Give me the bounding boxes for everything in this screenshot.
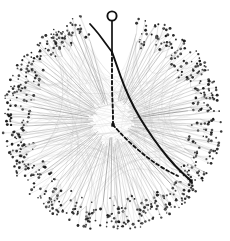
leaf-node-dot xyxy=(25,71,27,73)
leaf-node-dot xyxy=(140,215,142,217)
leaf-node-dot xyxy=(175,199,178,202)
leaf-node-dot xyxy=(47,202,49,204)
leaf-node-dot xyxy=(26,54,29,57)
leaf-node-dot xyxy=(109,197,111,199)
leaf-node-dot xyxy=(188,190,190,192)
leaf-node-dot xyxy=(89,227,91,229)
leaf-node-dot xyxy=(210,119,213,122)
leaf-node-dot xyxy=(23,120,25,122)
leaf-node-dot xyxy=(14,104,17,107)
leaf-node-dot xyxy=(71,23,73,25)
leaf-node-dot xyxy=(171,47,173,49)
leaf-node-dot xyxy=(160,216,162,218)
leaf-node-dot xyxy=(187,138,190,141)
leaf-node-dot xyxy=(216,99,219,102)
leaf-node-dot xyxy=(33,57,35,59)
leaf-node-dot xyxy=(178,207,180,209)
leaf-node-dot xyxy=(134,226,136,228)
leaf-node-dot xyxy=(215,89,217,91)
leaf-node-dot xyxy=(33,186,35,188)
leaf-node-dot xyxy=(189,176,192,179)
leaf-node-dot xyxy=(216,152,218,154)
leaf-node-dot xyxy=(30,175,32,177)
leaf-node-dot xyxy=(50,33,52,35)
leaf-node-dot xyxy=(193,157,195,159)
leaf-node-dot xyxy=(106,214,109,217)
leaf-node-dot xyxy=(160,43,162,45)
leaf-node-dot xyxy=(210,162,213,165)
leaf-node-dot xyxy=(33,182,35,184)
leaf-node-dot xyxy=(198,175,200,177)
leaf-node-dot xyxy=(170,57,173,60)
leaf-node-dot xyxy=(85,226,87,228)
leaf-node-dot xyxy=(217,144,220,147)
leaf-node-dot xyxy=(175,190,177,192)
leaf-node-dot xyxy=(14,136,16,138)
leaf-node-dot xyxy=(17,68,19,70)
leaf-node-dot xyxy=(141,222,144,225)
leaf-node-dot xyxy=(205,158,207,160)
leaf-node-dot xyxy=(70,42,73,45)
leaf-node-dot xyxy=(44,34,47,37)
leaf-node-dot xyxy=(117,211,120,214)
leaf-node-dot xyxy=(111,213,113,215)
leaf-node-dot xyxy=(51,180,53,182)
leaf-node-dot xyxy=(199,108,202,111)
leaf-node-dot xyxy=(192,69,194,71)
leaf-node-dot xyxy=(56,38,58,40)
leaf-node-dot xyxy=(41,36,44,39)
leaf-node-dot xyxy=(25,100,27,102)
leaf-node-dot xyxy=(51,212,54,215)
leaf-node-dot xyxy=(20,63,22,65)
leaf-node-dot xyxy=(39,49,41,51)
leaf-node-dot xyxy=(175,39,177,41)
leaf-node-dot xyxy=(45,205,48,208)
leaf-node-dot xyxy=(9,151,11,153)
leaf-node-dot xyxy=(32,60,34,62)
leaf-node-dot xyxy=(151,217,153,219)
leaf-node-dot xyxy=(66,29,68,31)
leaf-node-dot xyxy=(22,87,24,89)
leaf-node-dot xyxy=(216,94,219,97)
leaf-node-dot xyxy=(56,214,58,216)
leaf-node-dot xyxy=(147,204,149,206)
leaf-node-dot xyxy=(207,162,209,164)
leaf-node-dot xyxy=(203,135,205,137)
leaf-node-dot xyxy=(76,202,78,204)
leaf-node-dot xyxy=(26,153,28,155)
leaf-node-dot xyxy=(32,167,34,169)
leaf-node-dot xyxy=(197,53,199,55)
leaf-node-dot xyxy=(77,28,80,31)
leaf-node-dot xyxy=(12,94,14,96)
leaf-node-dot xyxy=(66,25,68,27)
leaf-node-dot xyxy=(37,197,39,199)
leaf-node-dot xyxy=(8,90,10,92)
leaf-node-dot xyxy=(16,175,18,177)
leaf-node-dot xyxy=(169,43,172,46)
leaf-node-dot xyxy=(18,74,21,77)
leaf-node-dot xyxy=(11,134,14,137)
leaf-node-dot xyxy=(64,35,66,37)
leaf-node-dot xyxy=(144,20,146,22)
leaf-node-dot xyxy=(121,207,123,209)
leaf-node-dot xyxy=(85,218,87,220)
leaf-node-dot xyxy=(93,209,95,211)
leaf-node-dot xyxy=(4,98,6,100)
leaf-node-dot xyxy=(47,49,50,52)
leaf-node-dot xyxy=(209,155,211,157)
leaf-node-dot xyxy=(9,113,12,116)
leaf-node-dot xyxy=(143,41,145,43)
leaf-node-dot xyxy=(188,196,191,199)
leaf-node-dot xyxy=(165,45,167,47)
leaf-node-dot xyxy=(72,18,74,20)
leaf-node-dot xyxy=(197,101,199,103)
leaf-node-dot xyxy=(210,108,212,110)
leaf-node-dot xyxy=(208,138,210,140)
leaf-node-dot xyxy=(184,202,186,204)
leaf-node-dot xyxy=(206,104,209,107)
leaf-node-dot xyxy=(192,102,195,105)
leaf-node-dot xyxy=(91,201,93,203)
leaf-node-dot xyxy=(188,135,190,137)
leaf-node-dot xyxy=(139,39,141,41)
leaf-node-dot xyxy=(23,143,26,146)
